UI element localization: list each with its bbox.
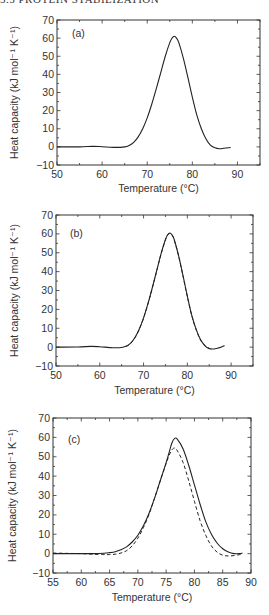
y-tick-label: 20 bbox=[42, 104, 54, 116]
x-tick-label: 90 bbox=[232, 168, 244, 180]
plot-frame bbox=[57, 20, 260, 165]
y-tick-label: 0 bbox=[44, 547, 50, 559]
x-tick-label: 80 bbox=[186, 168, 198, 180]
y-tick-label: −10 bbox=[32, 567, 50, 579]
figure: 5060708090−10010203040506070Temperature … bbox=[0, 0, 269, 615]
x-tick-label: 80 bbox=[189, 576, 201, 588]
chart-panel-b: 5060708090−10010203040506070Temperature … bbox=[8, 209, 253, 396]
x-tick-label: 60 bbox=[94, 369, 106, 381]
y-tick-label: 50 bbox=[42, 50, 54, 62]
y-axis-title: Heat capacity (kJ mol⁻¹ K⁻¹) bbox=[6, 429, 18, 562]
y-axis-title: Heat capacity (kJ mol⁻¹ K⁻¹) bbox=[8, 224, 20, 357]
y-axis-title: Heat capacity (kJ mol⁻¹ K⁻¹) bbox=[8, 26, 20, 159]
x-tick-label: 80 bbox=[181, 369, 193, 381]
x-tick-label: 90 bbox=[225, 369, 237, 381]
y-tick-label: 10 bbox=[42, 122, 54, 134]
y-tick-label: 70 bbox=[42, 14, 54, 26]
x-axis-title: Temperature (°C) bbox=[114, 384, 195, 396]
series-experimental-line bbox=[57, 36, 231, 148]
y-tick-label: 10 bbox=[41, 322, 53, 334]
chart-panel-a: 5060708090−10010203040506070Temperature … bbox=[8, 14, 260, 194]
y-tick-label: 40 bbox=[41, 265, 53, 277]
y-tick-label: 40 bbox=[38, 470, 50, 482]
y-tick-label: 40 bbox=[42, 68, 54, 80]
y-tick-label: 0 bbox=[48, 140, 54, 152]
y-tick-label: 60 bbox=[42, 32, 54, 44]
y-tick-label: 50 bbox=[38, 450, 50, 462]
chart-panel-c: 5560657075808590−10010203040506070Temper… bbox=[6, 412, 257, 603]
y-tick-label: 20 bbox=[38, 508, 50, 520]
series-fit-line bbox=[126, 234, 209, 349]
series-experimental-line bbox=[56, 233, 225, 349]
x-tick-label: 70 bbox=[141, 168, 153, 180]
panel-label: (b) bbox=[70, 227, 83, 239]
x-tick-label: 85 bbox=[217, 576, 229, 588]
y-tick-label: 60 bbox=[41, 227, 53, 239]
y-tick-label: 50 bbox=[41, 246, 53, 258]
x-tick-label: 90 bbox=[245, 576, 257, 588]
x-axis-title: Temperature (°C) bbox=[112, 591, 193, 603]
x-axis-title: Temperature (°C) bbox=[118, 182, 199, 194]
y-tick-label: 30 bbox=[41, 284, 53, 296]
panel-label: (a) bbox=[72, 27, 85, 39]
plot-frame bbox=[56, 215, 253, 366]
y-tick-label: 0 bbox=[47, 341, 53, 353]
y-tick-label: −10 bbox=[36, 159, 54, 171]
y-tick-label: 10 bbox=[38, 528, 50, 540]
y-tick-label: 20 bbox=[41, 303, 53, 315]
y-tick-label: 70 bbox=[38, 412, 50, 424]
x-tick-label: 60 bbox=[96, 168, 108, 180]
y-tick-label: 30 bbox=[38, 489, 50, 501]
y-tick-label: −10 bbox=[35, 360, 53, 372]
x-tick-label: 70 bbox=[138, 369, 150, 381]
x-tick-label: 65 bbox=[104, 576, 116, 588]
x-tick-label: 75 bbox=[160, 576, 172, 588]
series-solid-line bbox=[53, 438, 243, 554]
y-tick-label: 70 bbox=[41, 209, 53, 221]
plot-frame bbox=[53, 418, 251, 573]
y-tick-label: 30 bbox=[42, 86, 54, 98]
x-tick-label: 60 bbox=[75, 576, 87, 588]
panel-label: (c) bbox=[68, 433, 80, 445]
y-tick-label: 60 bbox=[38, 431, 50, 443]
x-tick-label: 70 bbox=[132, 576, 144, 588]
